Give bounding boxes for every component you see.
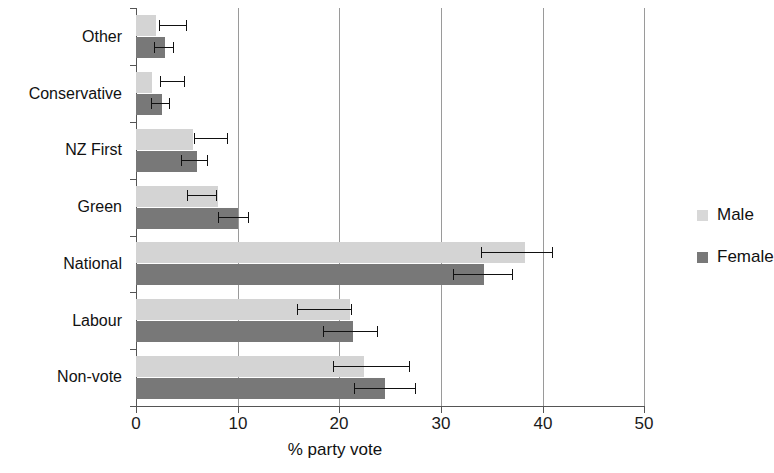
x-tick-40 <box>543 406 544 413</box>
bar-nz-first-male <box>136 129 193 150</box>
error-cap-low <box>333 361 334 372</box>
x-tick-50 <box>644 406 645 413</box>
plot-area <box>136 8 644 406</box>
x-tick-20 <box>339 406 340 413</box>
party-vote-bar-chart: 0 10 20 30 40 50 Other Conservative NZ F… <box>0 0 774 473</box>
x-tick-30 <box>441 406 442 413</box>
legend-label-female: Female <box>717 247 774 267</box>
error-cap-low <box>481 247 482 258</box>
error-bar-national-male <box>481 252 552 253</box>
error-cap-low <box>194 133 195 144</box>
bar-labour-male <box>136 299 350 320</box>
error-cap-low <box>151 98 152 109</box>
y-label-green: Green <box>0 198 122 216</box>
x-tick-label-20: 20 <box>330 414 349 434</box>
bar-national-male <box>136 242 525 263</box>
error-cap-high <box>173 42 174 53</box>
error-cap-high <box>415 383 416 394</box>
error-bar-other-male <box>159 25 186 26</box>
bar-conservative-male <box>136 72 152 93</box>
error-bar-conservative-female <box>151 103 169 104</box>
bar-other-female <box>136 37 165 58</box>
x-tick-label-30: 30 <box>432 414 451 434</box>
bar-green-male <box>136 186 218 207</box>
error-cap-low <box>181 155 182 166</box>
legend: Male Female <box>697 205 774 289</box>
bar-other-male <box>136 15 156 36</box>
error-cap-low <box>160 76 161 87</box>
error-cap-high <box>409 361 410 372</box>
y-tick-7 <box>130 406 137 407</box>
error-cap-low <box>297 304 298 315</box>
x-tick-label-10: 10 <box>229 414 248 434</box>
error-cap-high <box>227 133 228 144</box>
error-cap-high <box>184 76 185 87</box>
error-bar-labour-female <box>323 331 378 332</box>
error-cap-high <box>377 326 378 337</box>
y-label-national: National <box>0 255 122 273</box>
error-cap-high <box>207 155 208 166</box>
error-cap-high <box>351 304 352 315</box>
bar-national-female <box>136 264 484 285</box>
x-axis-title-text: % party vote <box>288 440 383 460</box>
error-cap-low <box>154 42 155 53</box>
error-cap-low <box>218 212 219 223</box>
y-label-other: Other <box>0 28 122 46</box>
error-bar-conservative-male <box>160 81 184 82</box>
error-cap-high <box>216 190 217 201</box>
legend-swatch-female-icon <box>697 252 708 263</box>
bar-green-female <box>136 208 238 229</box>
error-cap-low <box>453 269 454 280</box>
x-tick-label-50: 50 <box>635 414 654 434</box>
x-axis-title: % party vote <box>0 440 774 460</box>
error-bar-non-vote-female <box>354 388 416 389</box>
y-label-labour: Labour <box>0 312 122 330</box>
bar-non-vote-female <box>136 378 385 399</box>
x-tick-label-40: 40 <box>534 414 553 434</box>
error-cap-high <box>248 212 249 223</box>
y-label-conservative: Conservative <box>0 85 122 103</box>
error-cap-high <box>552 247 553 258</box>
error-bar-labour-male <box>297 309 353 310</box>
error-bar-other-female <box>154 47 173 48</box>
y-label-nonvote: Non-vote <box>0 368 122 386</box>
error-bar-national-female <box>453 274 513 275</box>
error-cap-low <box>159 20 160 31</box>
x-tick-0 <box>136 406 137 413</box>
legend-swatch-male-icon <box>697 210 708 221</box>
gridline-50 <box>644 8 645 406</box>
error-bar-nz-first-female <box>181 160 208 161</box>
legend-label-male: Male <box>717 205 754 225</box>
error-cap-high <box>169 98 170 109</box>
error-cap-low <box>323 326 324 337</box>
error-cap-high <box>512 269 513 280</box>
y-label-nzfirst: NZ First <box>0 141 122 159</box>
legend-item-male: Male <box>697 205 774 225</box>
error-bar-nz-first-male <box>194 138 229 139</box>
legend-item-female: Female <box>697 247 774 267</box>
error-cap-low <box>187 190 188 201</box>
error-cap-low <box>354 383 355 394</box>
error-bar-non-vote-male <box>333 366 410 367</box>
error-cap-high <box>186 20 187 31</box>
bar-non-vote-male <box>136 356 364 377</box>
x-axis-line <box>136 406 645 407</box>
error-bar-green-female <box>218 217 248 218</box>
bar-nz-first-female <box>136 151 197 172</box>
x-tick-10 <box>238 406 239 413</box>
error-bar-green-male <box>187 195 217 196</box>
x-tick-label-0: 0 <box>131 414 140 434</box>
bar-conservative-female <box>136 94 162 115</box>
bar-labour-female <box>136 321 353 342</box>
